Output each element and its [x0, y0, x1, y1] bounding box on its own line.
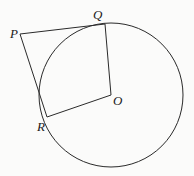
segment-pq: [20, 24, 105, 34]
label-p: P: [9, 26, 18, 41]
label-o: O: [113, 93, 123, 108]
segment-or: [47, 95, 111, 117]
diagram-canvas: P Q O R: [0, 0, 194, 176]
tangent-circle-diagram: P Q O R: [0, 0, 194, 176]
segment-pr: [20, 34, 47, 117]
segment-qo: [105, 24, 111, 95]
label-r: R: [36, 119, 45, 134]
label-q: Q: [93, 7, 103, 22]
